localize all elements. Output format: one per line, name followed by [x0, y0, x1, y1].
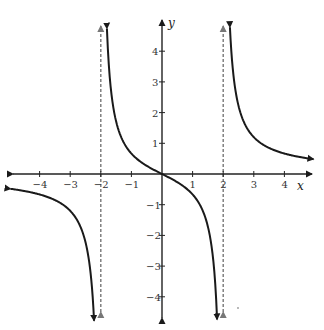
- rational-function-graph: −4−3−2−11234 −4−3−2−11234 x y: [0, 0, 324, 330]
- x-tick-label: −2: [94, 179, 109, 190]
- x-tick-label: −3: [63, 179, 78, 190]
- y-tick-label: −2: [146, 230, 161, 241]
- y-axis-label: y: [167, 16, 175, 30]
- x-tick-label: 2: [220, 179, 226, 190]
- scan-speck: [237, 307, 239, 309]
- y-tick-label: −4: [146, 292, 161, 303]
- y-tick-label: −3: [146, 261, 161, 272]
- x-tick-label: −1: [124, 179, 139, 190]
- y-tick-label: 4: [152, 46, 158, 57]
- x-tick-label: 1: [190, 179, 196, 190]
- y-tick-label: −1: [146, 200, 161, 211]
- y-tick-label: 3: [152, 77, 158, 88]
- curve-right-branch: [230, 27, 314, 159]
- y-tick-label: 1: [152, 138, 158, 149]
- axes: −4−3−2−11234 −4−3−2−11234 x y: [13, 16, 312, 318]
- x-axis-label: x: [297, 179, 304, 193]
- x-tick-label: 4: [281, 179, 287, 190]
- x-tick-label: 3: [251, 179, 257, 190]
- curve-left-branch: [11, 189, 95, 321]
- y-tick-label: 2: [152, 108, 158, 119]
- x-tick-label: −4: [33, 179, 48, 190]
